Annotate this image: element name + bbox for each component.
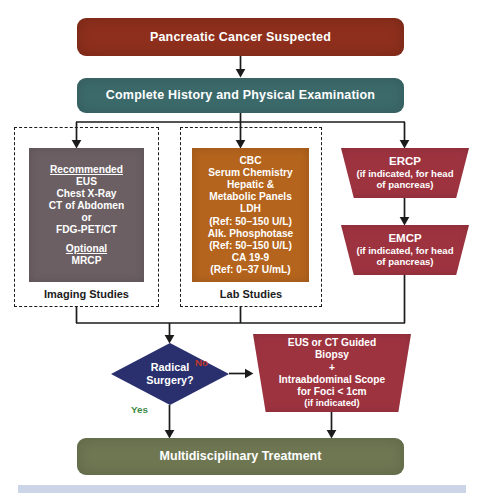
node-ercp[interactable]: ERCP (if indicated, for head of pancreas… xyxy=(341,148,469,198)
node-lab-studies-box[interactable]: CBC Serum Chemistry Hepatic & Metabolic … xyxy=(192,148,309,282)
imaging-item: Chest X-Ray xyxy=(56,188,116,200)
node-label: Complete History and Physical Examinatio… xyxy=(106,88,375,103)
node-radical-surgery-decision[interactable]: Radical Surgery? xyxy=(111,343,229,405)
imaging-item: MRCP xyxy=(72,255,102,267)
lab-item: CBC xyxy=(239,155,261,167)
lab-item: Alk. Phosphotase xyxy=(208,228,293,240)
lab-item: LDH xyxy=(240,203,261,215)
lab-item: (Ref: 50–150 U/L) xyxy=(209,240,292,252)
decision-label-line1: Radical xyxy=(151,361,189,374)
node-title: ERCP xyxy=(389,155,421,169)
biopsy-line: Biopsy xyxy=(315,349,349,361)
lab-item: Serum Chemistry xyxy=(208,167,292,179)
node-subtitle-line2: of pancreas) xyxy=(376,257,433,268)
page-footer-strip xyxy=(18,485,466,493)
biopsy-line: Intraabdominal Scope xyxy=(279,374,385,386)
imaging-item: CT of Abdomen xyxy=(49,200,124,212)
group-label-imaging-studies: Imaging Studies xyxy=(14,288,159,300)
node-label: Multidisciplinary Treatment xyxy=(160,449,322,464)
node-pancreatic-cancer-suspected[interactable]: Pancreatic Cancer Suspected xyxy=(77,18,404,56)
node-subtitle-line2: of pancreas) xyxy=(376,180,433,191)
lab-item: (Ref: 50–150 U/L) xyxy=(209,216,292,228)
biopsy-line: + xyxy=(329,362,335,374)
biopsy-line: EUS or CT Guided xyxy=(288,337,376,349)
node-emcp[interactable]: EMCP (if indicated, for head of pancreas… xyxy=(341,225,469,275)
imaging-item: or xyxy=(81,212,91,224)
lab-item: CA 19-9 xyxy=(232,252,270,264)
node-guided-biopsy[interactable]: EUS or CT Guided Biopsy + Intraabdominal… xyxy=(253,334,411,412)
node-label: Pancreatic Cancer Suspected xyxy=(150,30,331,45)
group-label-lab-studies: Lab Studies xyxy=(180,288,322,300)
biopsy-note: (if indicated) xyxy=(304,398,359,409)
node-title: EMCP xyxy=(388,232,421,246)
lab-item: (Ref: 0–37 U/mL) xyxy=(210,264,290,276)
edge-label-no: No xyxy=(195,357,208,368)
lab-item: Hepatic & xyxy=(227,179,274,191)
node-complete-history-physical-exam[interactable]: Complete History and Physical Examinatio… xyxy=(77,78,404,113)
edge-label-yes: Yes xyxy=(131,404,148,415)
node-imaging-studies-box[interactable]: Recommended EUS Chest X-Ray CT of Abdome… xyxy=(29,148,144,282)
imaging-heading-optional: Optional xyxy=(66,243,107,255)
biopsy-line: for Foci < 1cm xyxy=(297,386,366,398)
node-multidisciplinary-treatment[interactable]: Multidisciplinary Treatment xyxy=(77,438,404,475)
imaging-item: FDG-PET/CT xyxy=(56,224,117,236)
imaging-item: EUS xyxy=(76,176,97,188)
decision-label-line2: Surgery? xyxy=(146,374,193,387)
imaging-heading-recommended: Recommended xyxy=(50,164,123,176)
lab-item: Metabolic Panels xyxy=(209,191,292,203)
